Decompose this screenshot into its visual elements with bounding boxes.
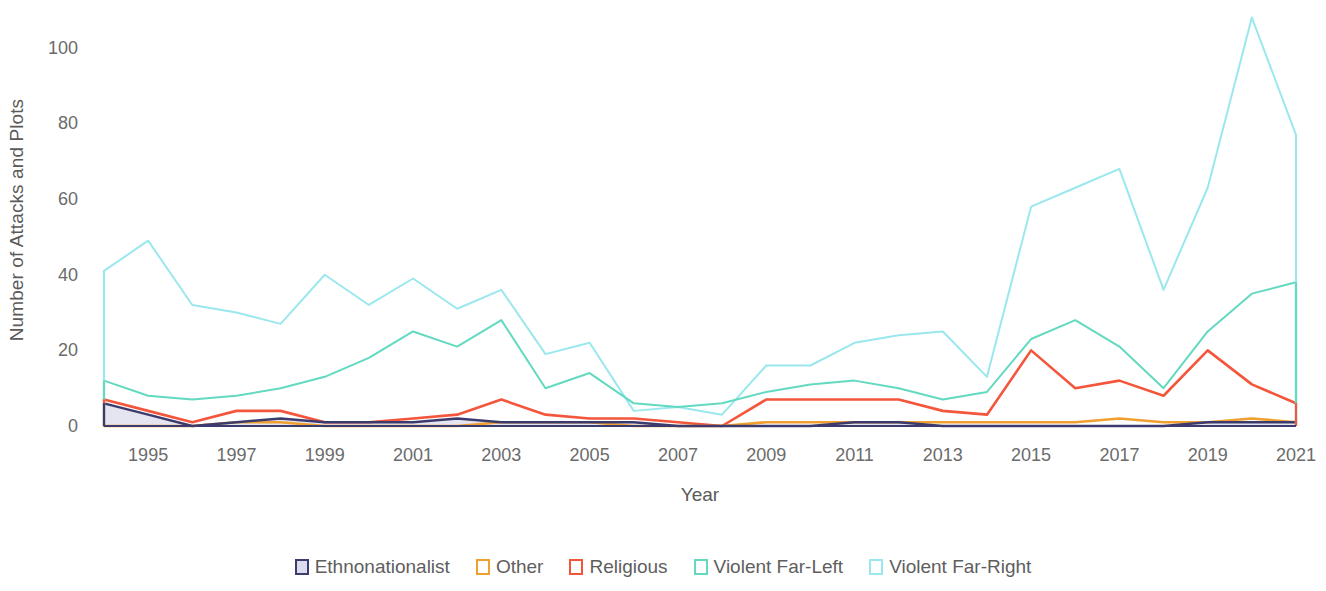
legend-item-other[interactable]: Other [476,556,544,578]
legend-label: Religious [589,556,667,578]
legend-item-ethnonationalist[interactable]: Ethnonationalist [295,556,450,578]
legend-label: Other [496,556,544,578]
legend-label: Violent Far-Left [714,556,844,578]
line-violent-far-right [104,18,1296,415]
legend-swatch-icon [869,559,883,575]
chart-legend: EthnonationalistOtherReligiousViolent Fa… [0,556,1326,578]
legend-swatch-icon [476,559,490,575]
legend-label: Violent Far-Right [889,556,1031,578]
legend-item-violent-far-left[interactable]: Violent Far-Left [694,556,844,578]
line-violent-far-left [104,282,1296,407]
legend-label: Ethnonationalist [315,556,450,578]
legend-item-religious[interactable]: Religious [569,556,667,578]
legend-item-violent-far-right[interactable]: Violent Far-Right [869,556,1031,578]
legend-swatch-icon [694,559,708,575]
chart-figure: Number of Attacks and Plots 020406080100… [0,0,1326,591]
x-axis-label: Year [104,484,1296,506]
legend-swatch-icon [295,559,309,575]
legend-swatch-icon [569,559,583,575]
